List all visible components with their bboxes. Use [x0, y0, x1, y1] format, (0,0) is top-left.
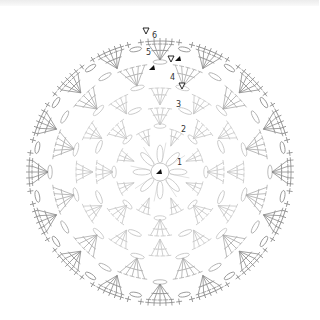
start-arrow-icon: [156, 169, 162, 174]
dc-top: [78, 98, 81, 102]
sc-stitch: [218, 287, 223, 290]
chain-stitch: [139, 176, 156, 193]
sc-stitch: [176, 42, 182, 43]
sc-stitch: [271, 102, 274, 107]
dc-top: [201, 218, 205, 221]
chain-stitch: [279, 141, 286, 154]
chain-stitch: [34, 190, 41, 203]
dc-top: [54, 148, 55, 153]
dc-stitch: [138, 198, 149, 210]
sc-stitch: [236, 65, 241, 69]
chain-stitch: [216, 190, 225, 205]
dc-top: [120, 191, 122, 195]
dc-crossbar: [256, 144, 257, 148]
dc-top: [197, 191, 199, 195]
dc-crossbar: [170, 207, 174, 208]
round-label-4: 4: [170, 73, 175, 82]
dc-top: [167, 235, 172, 236]
dc-crossbar: [90, 204, 92, 208]
chain-stitch: [157, 181, 163, 199]
dc-top: [136, 209, 140, 211]
round-start-icon: [149, 65, 155, 70]
dc-crossbar: [228, 136, 230, 140]
sc-stitch: [289, 150, 290, 156]
dc-stitch: [246, 195, 264, 200]
dc-stitch: [56, 195, 74, 200]
sc-stitch: [169, 302, 175, 303]
dc-crossbar: [61, 151, 62, 155]
dc-stitch: [132, 258, 137, 276]
dc-top: [59, 129, 61, 134]
dc-stitch: [194, 104, 210, 114]
dc-top: [259, 129, 261, 134]
dc-stitch: [38, 129, 57, 134]
dc-top: [173, 279, 178, 280]
dc-top: [198, 71, 203, 73]
chain-stitch: [127, 106, 142, 115]
chain-stitch: [178, 46, 191, 53]
dc-crossbar: [181, 74, 185, 75]
sc-stitch: [138, 301, 144, 302]
round-label-3: 3: [176, 100, 181, 109]
dc-crossbar: [256, 196, 257, 200]
dc-stitch: [160, 44, 166, 60]
dc-stitch: [111, 230, 127, 240]
dc-crossbar: [257, 148, 258, 152]
dc-stitch: [154, 44, 160, 60]
dc-stitch: [218, 133, 234, 139]
dc-top: [111, 213, 114, 217]
round-label-5: 5: [146, 48, 151, 57]
dc-top: [265, 191, 266, 196]
dc-stitch: [186, 183, 198, 194]
dc-crossbar: [274, 130, 275, 134]
dc-crossbar: [146, 136, 150, 137]
chain-stitch: [34, 141, 41, 154]
chain-stitch: [98, 262, 112, 273]
dc-top: [86, 251, 90, 254]
sc-stitch: [290, 181, 291, 187]
sc-stitch: [218, 55, 223, 58]
dc-stitch: [117, 50, 122, 69]
dc-top: [53, 154, 54, 159]
sc-stitch: [30, 188, 31, 194]
dc-stitch: [138, 134, 149, 146]
dc-top: [136, 66, 141, 67]
dc-top: [166, 255, 171, 256]
dc-top: [179, 209, 183, 211]
dc-stitch: [272, 160, 287, 172]
dc-crossbar: [124, 102, 128, 104]
dc-crossbar: [103, 175, 104, 179]
dc-top: [113, 99, 117, 102]
dc-top: [179, 66, 184, 67]
sc-stitch: [145, 41, 151, 42]
sc-stitch: [29, 157, 30, 163]
chain-stitch: [208, 262, 222, 273]
dc-top: [76, 178, 77, 183]
dc-top: [117, 271, 122, 273]
chain-stitch: [122, 134, 134, 146]
dc-crossbar: [139, 73, 143, 74]
dc-top: [59, 210, 61, 215]
dc-crossbar: [258, 151, 259, 155]
sc-stitch: [90, 283, 95, 286]
dc-stitch: [194, 98, 200, 114]
dc-top: [115, 123, 119, 126]
round-label-2: 2: [181, 125, 186, 134]
chain-stitch: [178, 291, 191, 298]
sc-stitch: [97, 287, 102, 290]
dc-top: [259, 210, 261, 215]
dc-top: [87, 125, 90, 129]
sc-stitch: [46, 237, 49, 242]
dc-stitch: [186, 150, 198, 161]
dc-top: [230, 251, 234, 254]
dc-top: [117, 71, 122, 73]
dc-stitch: [38, 210, 57, 215]
sc-stitch: [275, 109, 278, 114]
dc-stitch: [32, 172, 48, 178]
dc-stitch: [272, 172, 288, 178]
dc-crossbar: [62, 148, 63, 152]
chain-stitch: [208, 71, 222, 82]
sc-stitch: [138, 42, 144, 43]
dc-stitch: [194, 95, 195, 114]
chain-stitch: [133, 169, 151, 175]
